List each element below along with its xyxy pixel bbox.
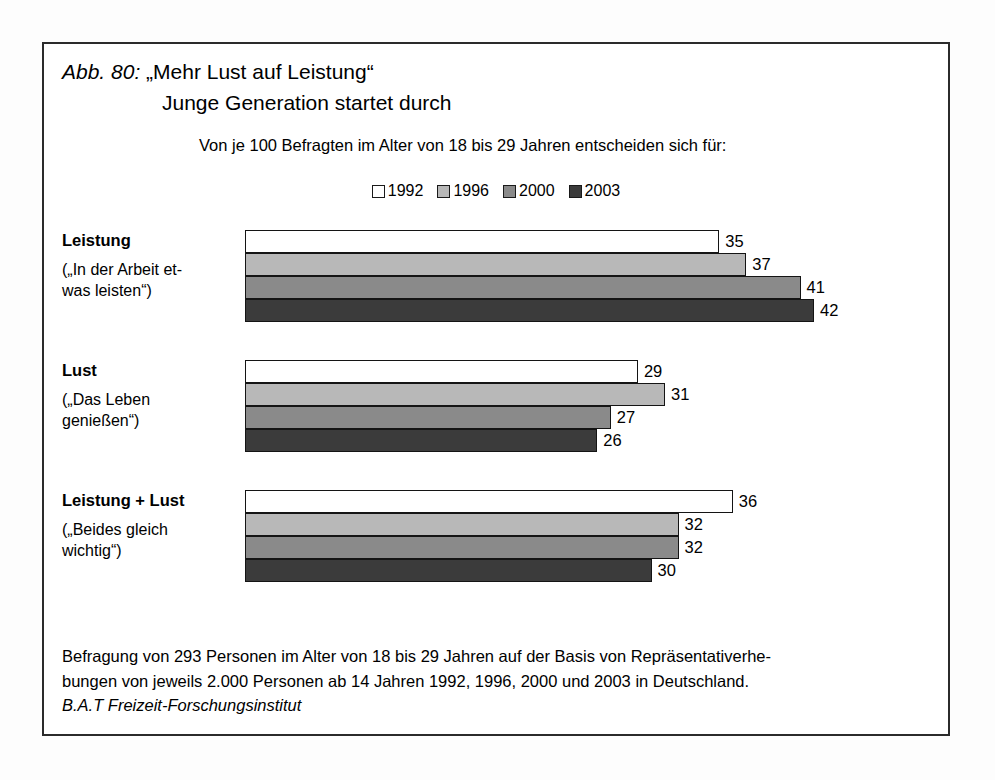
bar-2003 xyxy=(245,299,814,322)
bar-2000 xyxy=(245,406,611,429)
chart-plot-area: Leistung(„In der Arbeit et- was leisten“… xyxy=(44,44,948,734)
bar-row: 35 xyxy=(245,230,838,253)
bar-group-title: Lust xyxy=(62,360,252,380)
bar-1996 xyxy=(245,513,679,536)
bar-2003 xyxy=(245,559,652,582)
bar-value-label: 36 xyxy=(739,493,757,510)
bar-group-labels: Leistung + Lust(„Beides gleich wichtig“) xyxy=(62,490,252,561)
bar-1992 xyxy=(245,490,733,513)
bar-row: 32 xyxy=(245,513,757,536)
bar-group-bars: 36323230 xyxy=(245,490,757,582)
footnote-line-1: Befragung von 293 Personen im Alter von … xyxy=(62,644,932,669)
footnote-line-2: bungen von jeweils 2.000 Personen ab 14 … xyxy=(62,669,932,694)
bar-1996 xyxy=(245,253,746,276)
bar-group-labels: Leistung(„In der Arbeit et- was leisten“… xyxy=(62,230,252,301)
bar-value-label: 32 xyxy=(685,516,703,533)
bar-2003 xyxy=(245,429,597,452)
bar-row: 42 xyxy=(245,299,838,322)
bar-value-label: 35 xyxy=(725,233,743,250)
bar-group-subtitle: („Das Leben genießen“) xyxy=(62,389,252,431)
bar-value-label: 32 xyxy=(685,539,703,556)
figure-footnote: Befragung von 293 Personen im Alter von … xyxy=(62,644,932,694)
bar-value-label: 37 xyxy=(752,256,770,273)
bar-1992 xyxy=(245,360,638,383)
bar-group-title: Leistung + Lust xyxy=(62,490,252,510)
bar-group-bars: 35374142 xyxy=(245,230,838,322)
bar-1996 xyxy=(245,383,665,406)
bar-1992 xyxy=(245,230,719,253)
figure-frame: Abb. 80: „Mehr Lust auf Leistung“ Junge … xyxy=(42,42,950,736)
bar-row: 31 xyxy=(245,383,689,406)
bar-group-subtitle: („Beides gleich wichtig“) xyxy=(62,519,252,561)
bar-group-bars: 29312726 xyxy=(245,360,689,452)
bar-value-label: 29 xyxy=(644,363,662,380)
bar-group-labels: Lust(„Das Leben genießen“) xyxy=(62,360,252,431)
bar-value-label: 31 xyxy=(671,386,689,403)
bar-2000 xyxy=(245,536,679,559)
figure-source: B.A.T Freizeit-Forschungsinstitut xyxy=(62,696,301,715)
bar-row: 41 xyxy=(245,276,838,299)
bar-row: 26 xyxy=(245,429,689,452)
bar-2000 xyxy=(245,276,801,299)
bar-group-subtitle: („In der Arbeit et- was leisten“) xyxy=(62,259,252,301)
bar-group-title: Leistung xyxy=(62,230,252,250)
bar-row: 30 xyxy=(245,559,757,582)
bar-row: 29 xyxy=(245,360,689,383)
bar-value-label: 27 xyxy=(617,409,635,426)
bar-value-label: 30 xyxy=(658,562,676,579)
bar-value-label: 41 xyxy=(807,279,825,296)
bar-row: 27 xyxy=(245,406,689,429)
bar-row: 36 xyxy=(245,490,757,513)
bar-value-label: 42 xyxy=(820,302,838,319)
bar-row: 32 xyxy=(245,536,757,559)
bar-value-label: 26 xyxy=(603,432,621,449)
page-canvas: Abb. 80: „Mehr Lust auf Leistung“ Junge … xyxy=(0,0,995,780)
bar-row: 37 xyxy=(245,253,838,276)
